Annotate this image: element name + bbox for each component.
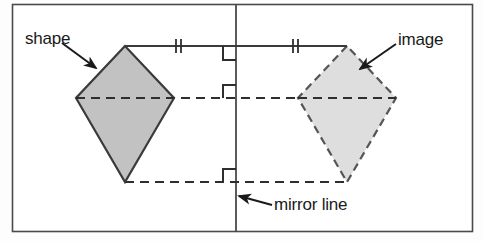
label-mirror-line: mirror line (274, 196, 347, 213)
label-shape: shape (25, 30, 70, 47)
label-image: image (398, 31, 443, 48)
figure-canvas: shape image mirror line (0, 0, 483, 241)
